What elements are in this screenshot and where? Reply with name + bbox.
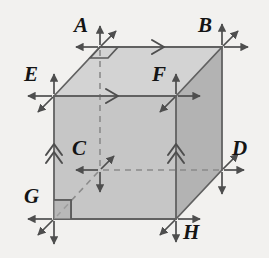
vector-H-down-left [160,220,175,235]
vertex-label-F: F [152,64,166,85]
vector-G-down-left [38,220,53,235]
vertex-label-C: C [72,138,86,159]
vertex-label-E: E [24,64,38,85]
vertex-label-A: A [74,15,88,36]
vectors-at-G [28,219,54,244]
diagram-canvas: A B E F C D G H [0,0,269,258]
vector-E-down-left [38,97,53,112]
cube-figure [0,0,269,258]
vectors-at-B [222,24,248,47]
vertex-label-B: B [198,15,212,36]
vertex-label-D: D [232,138,247,159]
vector-B-up-right [223,31,238,46]
vertex-label-G: G [24,186,39,207]
vertex-label-H: H [183,222,199,243]
vectors-at-D [222,154,244,194]
vector-A-up-right [101,31,116,46]
angle-fill-at-G [54,200,71,219]
